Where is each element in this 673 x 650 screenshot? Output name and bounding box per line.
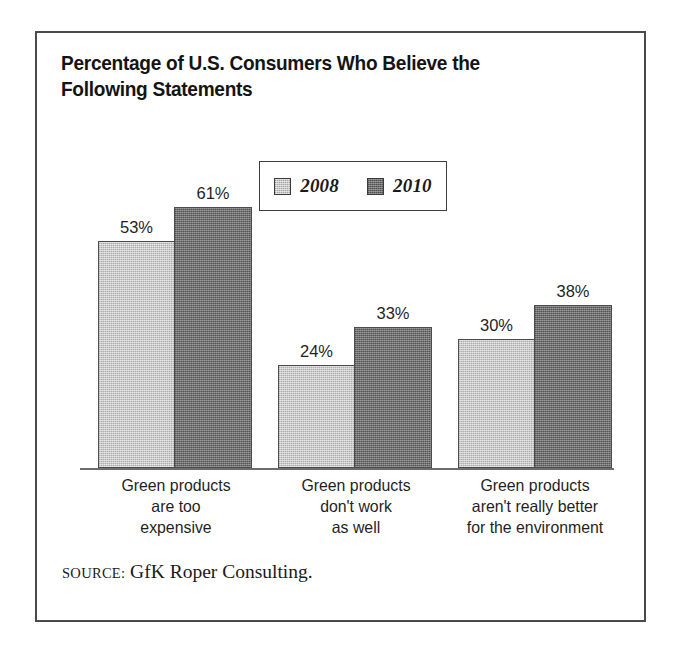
bar-value-label: 30% (480, 316, 513, 335)
bar-group-0: 53% 61% (98, 168, 253, 468)
x-axis-tick-label-1: Green products don't work as well (269, 475, 444, 538)
source-text: GfK Roper Consulting. (130, 561, 313, 582)
x-axis-tick-label-2: Green products aren't really better for … (439, 475, 631, 538)
bar-2010-2: 38% (534, 305, 612, 468)
bar-2008-0: 53% (98, 241, 175, 468)
x-axis-tick-label-0: Green products are too expensive (89, 475, 264, 538)
source-note: SOURCE: GfK Roper Consulting. (62, 561, 313, 583)
bar-2010-0: 61% (174, 207, 252, 468)
bar-value-label: 33% (376, 304, 409, 323)
plot-area: 2008 2010 53% 61% 24% (37, 33, 648, 624)
figure-frame: Percentage of U.S. Consumers Who Believe… (35, 31, 646, 622)
source-label: SOURCE: (62, 565, 125, 581)
bar-group-2: 30% 38% (458, 168, 613, 468)
bar-2010-1: 33% (354, 327, 432, 468)
bar-value-label: 53% (120, 218, 153, 237)
bar-2008-1: 24% (278, 365, 355, 468)
bar-group-1: 24% 33% (278, 168, 433, 468)
bar-value-label: 38% (556, 282, 589, 301)
x-axis-line (80, 468, 614, 470)
bar-2008-2: 30% (458, 339, 535, 468)
bar-value-label: 24% (300, 342, 333, 361)
bar-value-label: 61% (196, 184, 229, 203)
